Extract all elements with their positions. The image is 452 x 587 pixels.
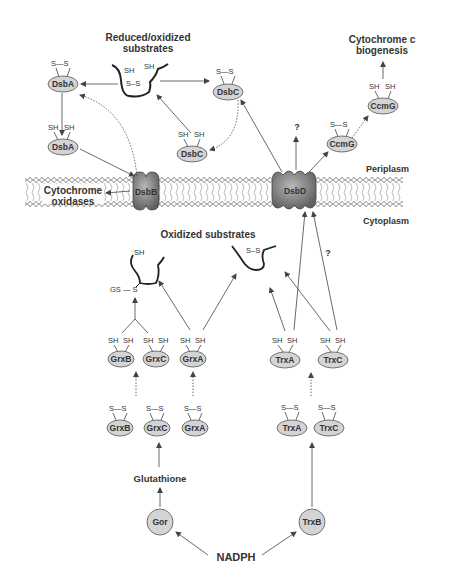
svg-text:SH: SH — [195, 336, 205, 345]
question-mark: ? — [294, 122, 300, 132]
svg-text:SH: SH — [123, 336, 133, 345]
svg-text:SH: SH — [335, 336, 345, 345]
svg-text:SH: SH — [369, 82, 379, 91]
svg-text:SH: SH — [180, 336, 190, 345]
svg-text:S—S: S—S — [281, 403, 299, 412]
svg-text:SH: SH — [385, 82, 395, 91]
svg-text:S—S: S—S — [318, 403, 336, 412]
biogenesis-label: biogenesis — [356, 45, 409, 56]
grxA-oxidized: S—S GrxA — [182, 404, 208, 436]
svg-text:S–S: S–S — [126, 79, 140, 88]
dsbC-oxidized: S—S DsbC — [213, 67, 243, 100]
trxB: TrxB — [299, 509, 325, 535]
svg-text:DsbC: DsbC — [217, 87, 239, 97]
question-mark: ? — [325, 248, 331, 258]
periplasm-label: Periplasm — [366, 164, 409, 174]
dsbB-membrane-protein: DsbB — [133, 172, 159, 210]
svg-text:SH: SH — [108, 336, 118, 345]
svg-text:S—S: S—S — [51, 59, 69, 68]
svg-text:S—S: S—S — [216, 67, 234, 76]
substrates-label: substrates — [123, 43, 174, 54]
svg-text:S—S: S—S — [109, 404, 127, 413]
trxA-oxidized: S—S TrxA — [277, 403, 307, 436]
svg-text:SH: SH — [124, 66, 134, 75]
dsbC-reduced: SH SH DsbC — [177, 130, 207, 162]
svg-text:SH: SH — [194, 130, 204, 139]
svg-text:DsbB: DsbB — [135, 187, 157, 197]
pathway-diagram: Reduced/oxidized substrates Cytochrome c… — [0, 0, 452, 587]
svg-text:DsbD: DsbD — [284, 186, 306, 196]
svg-text:S—S: S—S — [330, 120, 348, 129]
svg-text:GS — S: GS — S — [110, 285, 138, 294]
nadph-label: NADPH — [216, 551, 255, 563]
oxidases-label: oxidases — [52, 196, 95, 207]
svg-text:SH: SH — [158, 336, 168, 345]
ccmG-oxidized: S—S CcmG — [327, 120, 357, 152]
trxA-reduced: SH SH TrxA — [270, 336, 300, 368]
grxB-oxidized: S—S GrxB — [107, 404, 133, 436]
dsbA-reduced: SH SH DsbA — [48, 123, 78, 155]
svg-text:CcmG: CcmG — [370, 101, 395, 111]
svg-text:Gor: Gor — [152, 517, 168, 527]
grxA-reduced: SH SH GrxA — [180, 336, 206, 367]
svg-text:SH: SH — [144, 62, 154, 71]
svg-text:DsbA: DsbA — [52, 79, 74, 89]
cytochrome-oxidases-label: Cytochrome — [44, 185, 103, 196]
cytochrome-c-label: Cytochrome c — [349, 34, 416, 45]
glutathione-label: Glutathione — [134, 473, 187, 484]
trxC-reduced: SH SH TrxC — [318, 336, 348, 368]
trxC-oxidized: S—S TrxC — [314, 403, 344, 436]
svg-text:S—S: S—S — [184, 404, 202, 413]
oxidized-substrates-label: Oxidized substrates — [160, 229, 255, 240]
gor: Gor — [147, 509, 173, 535]
svg-text:DsbC: DsbC — [181, 149, 203, 159]
svg-text:SH: SH — [64, 123, 74, 132]
reduced-oxidized-label: Reduced/oxidized — [105, 32, 190, 43]
svg-text:SH: SH — [48, 123, 58, 132]
svg-text:GrxB: GrxB — [111, 354, 132, 364]
svg-text:DsbA: DsbA — [52, 142, 74, 152]
cytoplasm-arrows — [122, 212, 337, 555]
dsbD-membrane-protein: DsbD — [272, 171, 316, 209]
svg-text:TrxB: TrxB — [303, 517, 322, 527]
svg-text:GrxA: GrxA — [185, 423, 206, 433]
cytoplasm-label: Cytoplasm — [363, 216, 409, 226]
svg-text:GrxC: GrxC — [146, 354, 167, 364]
svg-text:SH: SH — [134, 248, 144, 257]
svg-text:SH: SH — [287, 336, 297, 345]
grxB-reduced: SH SH GrxB — [108, 336, 134, 367]
grxC-oxidized: S—S GrxC — [144, 404, 170, 436]
svg-text:CcmG: CcmG — [329, 139, 354, 149]
oxidized-substrate: S–S — [232, 246, 276, 270]
svg-text:TrxC: TrxC — [320, 423, 339, 433]
svg-text:TrxA: TrxA — [283, 423, 302, 433]
grxC-reduced: SH SH GrxC — [143, 336, 169, 367]
svg-text:S–S: S–S — [246, 246, 260, 255]
svg-text:S—S: S—S — [146, 404, 164, 413]
svg-text:SH: SH — [178, 130, 188, 139]
svg-text:SH: SH — [272, 336, 282, 345]
svg-text:GrxC: GrxC — [147, 423, 168, 433]
reduced-oxidized-substrate: SH SH S–S — [112, 62, 168, 97]
svg-text:SH: SH — [143, 336, 153, 345]
svg-text:SH: SH — [320, 336, 330, 345]
dsbA-oxidized: S—S DsbA — [48, 59, 78, 92]
svg-text:TrxA: TrxA — [276, 355, 295, 365]
ccmG-reduced: SH SH CcmG — [368, 82, 398, 114]
svg-text:TrxC: TrxC — [324, 355, 343, 365]
svg-text:GrxB: GrxB — [110, 423, 131, 433]
glutathionylated-substrate: SH GS — S — [110, 248, 164, 294]
svg-text:GrxA: GrxA — [183, 354, 204, 364]
